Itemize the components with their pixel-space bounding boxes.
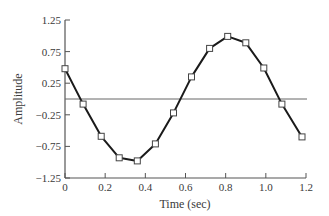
y-tick-label: −1.25 [36,172,62,184]
y-tick-label: 0.75 [42,46,62,58]
amplitude-time-chart: 1.250.750.25−0.25−0.75−1.2500.20.40.60.8… [0,0,329,216]
x-tick-label: 0.6 [179,181,193,193]
y-tick-label: 1.25 [42,14,62,26]
data-point-marker [207,45,213,51]
x-tick-label: 1.0 [259,181,273,193]
y-tick-label: −0.75 [36,140,62,152]
data-point-marker [243,40,249,46]
data-point-marker [171,110,177,116]
data-point-marker [279,101,285,107]
x-tick-label: 0.2 [98,181,112,193]
x-tick-label: 0.4 [138,181,152,193]
data-point-marker [98,133,104,139]
data-point-marker [225,33,231,39]
data-point-marker [116,155,122,161]
data-point-marker [152,141,158,147]
x-axis-title: Time (sec) [159,197,210,211]
x-tick-label: 0.8 [219,181,233,193]
data-point-marker [299,134,305,140]
x-tick-label: 1.2 [299,181,313,193]
data-point-marker [134,158,140,164]
y-tick-label: 0.25 [42,77,62,89]
x-tick-label: 0 [62,181,68,193]
axes: 1.250.750.25−0.25−0.75−1.2500.20.40.60.8… [36,14,313,193]
data-point-marker [261,65,267,71]
data-point-marker [80,101,86,107]
data-point-marker [62,66,68,72]
data-point-marker [189,74,195,80]
y-tick-label: −0.25 [36,109,62,121]
y-axis-title: Amplitude [11,73,25,124]
